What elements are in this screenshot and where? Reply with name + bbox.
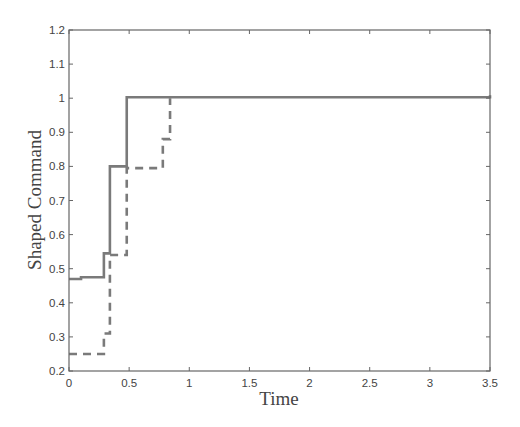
series-layer [69,95,490,354]
y-tick-label: 1.1 [49,58,65,70]
x-tick-label: 0 [66,377,72,389]
x-tick-label: 1.5 [241,377,257,389]
x-tick-label: 2.5 [362,377,378,389]
y-tick-label: 0.3 [49,331,65,343]
x-tick-label: 0.5 [121,377,137,389]
axes-box [69,30,490,371]
y-tick-label: 0.9 [49,126,65,138]
y-tick-label: 0.4 [49,297,66,309]
y-tick-label: 0.5 [49,263,65,275]
x-tick-label: 1 [186,377,192,389]
x-tick-label: 2 [306,377,312,389]
y-tick-label: 0.8 [49,160,65,172]
y-tick-label: 0.7 [49,195,65,207]
y-tick-label: 0.2 [49,365,65,377]
x-tick-label: 3.5 [482,377,498,389]
y-tick-label: 1 [59,92,65,104]
axes: 00.511.522.533.50.20.30.40.50.60.70.80.9… [49,24,498,389]
series-solid-line [69,95,490,279]
shaped-command-chart: 00.511.522.533.50.20.30.40.50.60.70.80.9… [0,0,520,427]
y-tick-label: 1.2 [49,24,65,36]
x-axis-label: Time [259,388,298,409]
y-tick-label: 0.6 [49,229,65,241]
x-tick-label: 3 [427,377,433,389]
y-axis-label: Shaped Command [24,130,45,270]
series-dashed-line [69,98,170,354]
